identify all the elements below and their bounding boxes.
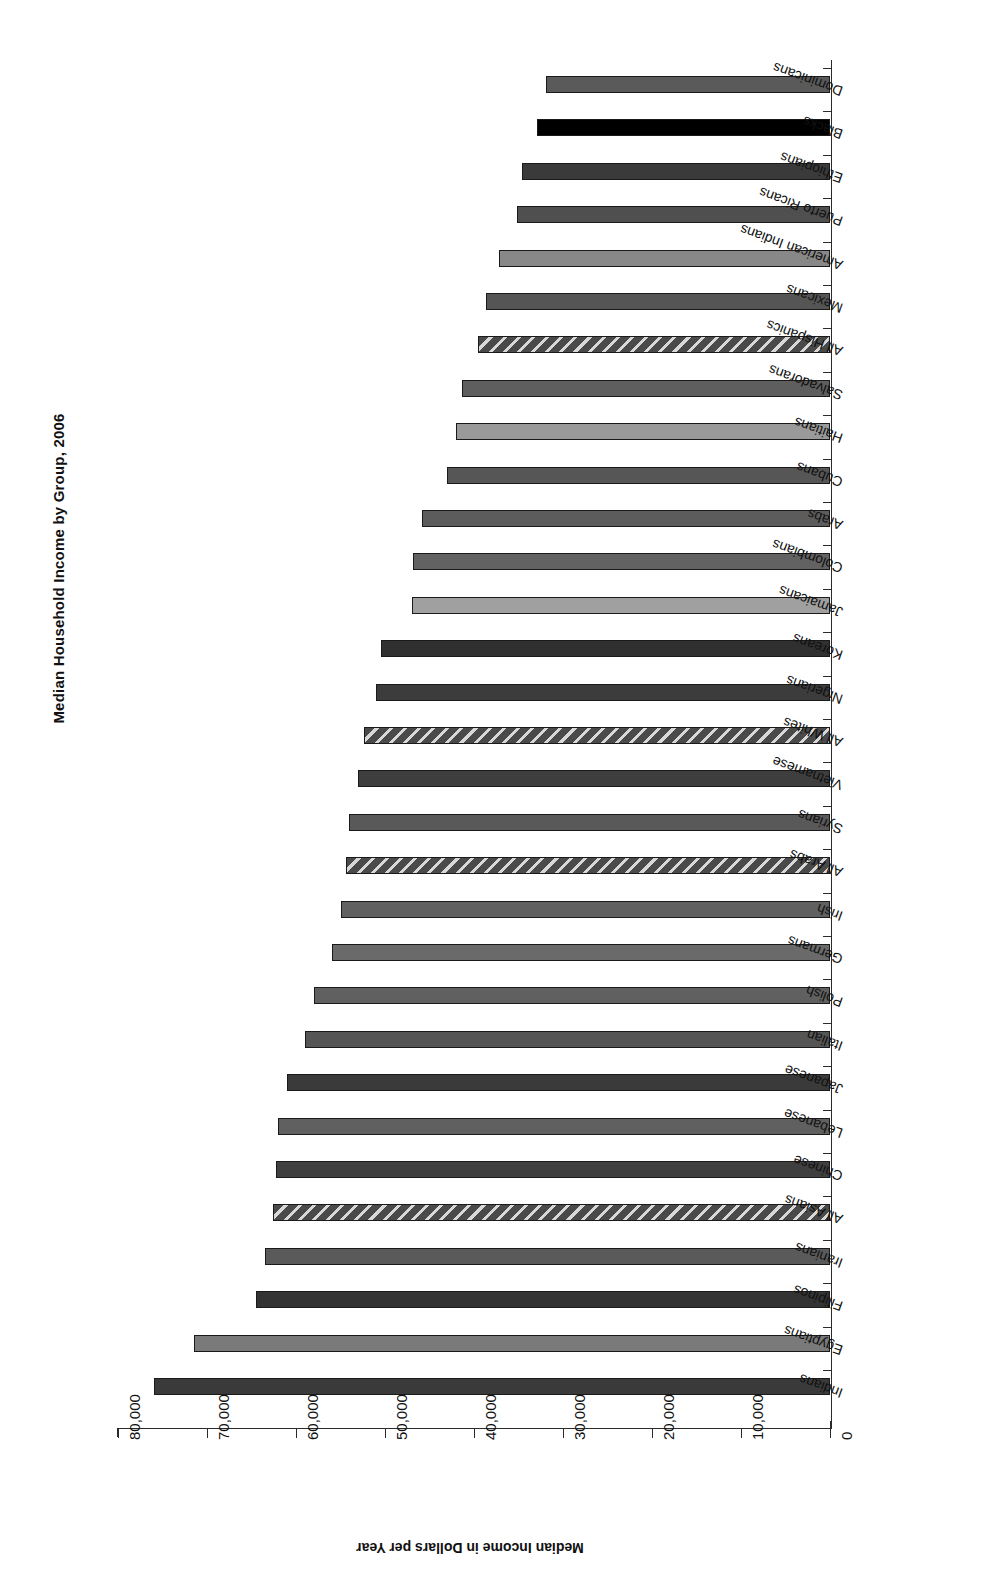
category-tick	[823, 1240, 832, 1241]
value-tick	[830, 1429, 831, 1438]
category-label-all-arabs: All Arabs	[787, 847, 844, 881]
value-tick-label: 30,000	[571, 1394, 588, 1440]
category-tick	[823, 1110, 832, 1111]
category-tick	[823, 1370, 832, 1371]
value-tick-label: 10,000	[749, 1394, 766, 1440]
value-tick	[296, 1429, 297, 1438]
category-tick	[823, 1283, 832, 1284]
category-tick	[823, 328, 832, 329]
category-tick	[823, 893, 832, 894]
bar-salvadorans	[462, 380, 830, 397]
value-tick	[563, 1429, 564, 1438]
category-label-germans: Germans	[785, 933, 845, 968]
bar-polish	[314, 987, 830, 1004]
category-tick	[823, 632, 832, 633]
category-label-polish: Polish	[803, 983, 844, 1011]
category-tick	[823, 849, 832, 850]
category-label-indians: Indians	[797, 1371, 845, 1401]
category-label-jamaicans: Jamaicans	[776, 582, 844, 620]
category-label-all-asians: All Asians	[782, 1192, 845, 1228]
value-tick	[652, 1429, 653, 1438]
category-tick	[823, 1066, 832, 1067]
category-tick	[823, 459, 832, 460]
category-tick	[823, 68, 832, 69]
bar-germans	[332, 944, 830, 961]
category-tick	[823, 719, 832, 720]
bar-chinese	[276, 1161, 830, 1178]
value-tick	[474, 1429, 475, 1438]
category-label-nigerians: Nigerians	[784, 672, 845, 707]
bar-italian	[305, 1031, 830, 1048]
bar-iranians	[265, 1248, 830, 1265]
category-label-filipinos: Filipinos	[791, 1282, 845, 1315]
category-tick	[823, 372, 832, 373]
value-tick	[207, 1429, 208, 1438]
category-label-ethiopians: Ethiopians	[778, 149, 845, 186]
category-tick	[823, 1153, 832, 1154]
bar-egyptians	[194, 1335, 830, 1352]
bar-japanese	[287, 1074, 830, 1091]
bar-indians	[154, 1378, 830, 1395]
category-tick	[823, 242, 832, 243]
category-label-lebanese: Lebanese	[781, 1105, 844, 1141]
bar-syrians	[349, 814, 830, 831]
bar-all-arabs	[346, 857, 830, 874]
category-label-egyptians: Egyptians	[781, 1322, 844, 1358]
bar-blacks	[537, 119, 830, 136]
category-tick	[823, 155, 832, 156]
category-tick	[823, 1023, 832, 1024]
value-tick-label: 40,000	[482, 1394, 499, 1440]
bar-all-whites	[364, 727, 830, 744]
category-tick	[823, 676, 832, 677]
bar-filipinos	[256, 1291, 830, 1308]
chart-page: Median Household Income by Group, 2006 0…	[0, 0, 997, 1595]
category-tick	[823, 502, 832, 503]
category-label-mexicans: Mexicans	[784, 281, 845, 316]
category-tick	[823, 806, 832, 807]
category-tick	[823, 285, 832, 286]
category-tick	[823, 198, 832, 199]
category-tick	[823, 762, 832, 763]
category-tick	[823, 545, 832, 546]
bar-colombians	[413, 553, 830, 570]
value-tick-label: 0	[838, 1432, 855, 1440]
bar-haitians	[456, 423, 830, 440]
category-label-irish: Irish	[814, 900, 844, 924]
value-tick-label: 80,000	[126, 1394, 143, 1440]
category-tick	[823, 979, 832, 980]
category-label-chinese: Chinese	[791, 1152, 845, 1185]
bar-mexicans	[486, 293, 830, 310]
value-tick	[385, 1429, 386, 1438]
category-label-iranians: Iranians	[792, 1239, 844, 1271]
bar-vietnamese	[358, 770, 830, 787]
value-axis-title: Median Income in Dollars per Year	[120, 1540, 820, 1556]
bar-koreans	[381, 640, 830, 657]
category-tick	[823, 415, 832, 416]
category-label-cubans: Cubans	[794, 459, 845, 491]
category-tick	[823, 589, 832, 590]
category-label-all-whites: All Whites	[781, 714, 845, 750]
category-tick	[823, 111, 832, 112]
bar-irish	[341, 901, 831, 918]
bar-arabs	[422, 510, 830, 527]
value-tick-label: 70,000	[215, 1394, 232, 1440]
bar-nigerians	[376, 684, 830, 701]
category-tick	[823, 936, 832, 937]
bar-lebanese	[278, 1118, 830, 1135]
value-tick-label: 50,000	[393, 1394, 410, 1440]
category-tick	[823, 1327, 832, 1328]
category-label-koreans: Koreans	[790, 631, 844, 664]
value-tick	[118, 1429, 119, 1438]
value-tick-label: 60,000	[304, 1394, 321, 1440]
value-tick	[741, 1429, 742, 1438]
category-label-syrians: Syrians	[795, 806, 844, 837]
category-label-japanese: Japanese	[782, 1062, 845, 1098]
category-tick	[823, 1196, 832, 1197]
plot-area: 010,00020,00030,00040,00050,00060,00070,…	[0, 0, 997, 1595]
category-label-haitians: Haitians	[792, 414, 845, 446]
bar-cubans	[447, 467, 830, 484]
bar-all-asians	[273, 1204, 830, 1221]
value-tick-label: 20,000	[660, 1394, 677, 1440]
category-label-blacks: Blacks	[801, 114, 845, 143]
bar-all-hispanics	[478, 336, 830, 353]
